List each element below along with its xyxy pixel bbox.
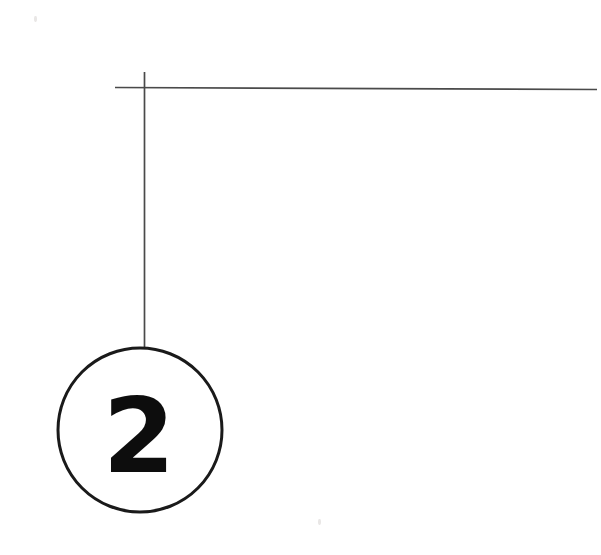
drawing-canvas: 2	[0, 0, 601, 555]
horizontal-rule-line	[115, 88, 597, 90]
technical-drawing-figure: 2	[0, 0, 601, 555]
callout-numeral-label: 2	[103, 375, 175, 497]
